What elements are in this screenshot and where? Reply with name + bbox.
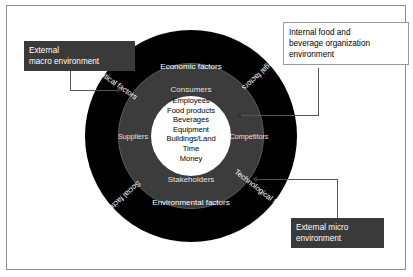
macro-connector-horizontal [70,90,118,91]
core-item-equipment: Equipment [143,125,239,135]
callout-internal-line-2: beverage organization [289,38,403,49]
internal-connector-vertical [318,68,319,116]
macro-label-economic: Economic factors [160,62,221,71]
micro-label-stakeholders: Stakeholders [168,175,215,184]
callout-external-micro-environment: External micro environment [291,218,384,248]
core-item-time: Time [143,144,239,154]
core-item-food-products: Food products [143,106,239,116]
callout-internal-organization-environment: Internal food and beverage organization … [283,22,409,65]
callout-micro-line-1: External micro [296,222,379,233]
callout-internal-line-1: Internal food and [289,27,403,38]
callout-micro-line-2: environment [296,233,379,244]
callout-macro-line-2: macro environment [29,56,130,67]
core-item-employees: Employees [143,96,239,106]
micro-connector-arrow-icon [252,176,257,182]
core-item-beverages: Beverages [143,115,239,125]
micro-connector-horizontal [255,179,338,180]
internal-connector-horizontal [239,115,319,116]
micro-label-consumers: Consumers [171,85,212,94]
core-item-buildings-land: Buildings/Land [143,134,239,144]
macro-connector-arrow-icon [117,87,122,93]
diagram-page: Economic factors Environmental factors P… [0,0,413,277]
macro-label-environmental: Environmental factors [152,198,229,207]
core-resource-list: Employees Food products Beverages Equipm… [143,96,239,163]
callout-macro-line-1: External [29,45,130,56]
macro-connector-vertical [70,68,71,91]
figure-frame: Economic factors Environmental factors P… [6,5,406,270]
callout-external-macro-environment: External macro environment [24,41,135,71]
callout-internal-line-3: environment [289,49,403,60]
micro-connector-vertical [337,179,338,219]
core-item-money: Money [143,154,239,164]
internal-connector-arrow-icon [236,112,241,118]
